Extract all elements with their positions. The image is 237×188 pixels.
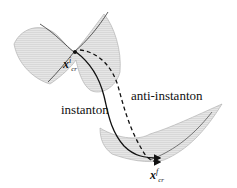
initial-point-marker xyxy=(73,50,77,54)
anti-instanton-label: anti-instanton xyxy=(131,89,203,102)
instanton-label: instanton xyxy=(61,103,109,116)
initial-point-label: xicr xyxy=(63,57,77,73)
valley-surface xyxy=(100,104,222,162)
final-point-label: xfcr xyxy=(150,168,164,184)
saddle-surface xyxy=(14,12,120,92)
